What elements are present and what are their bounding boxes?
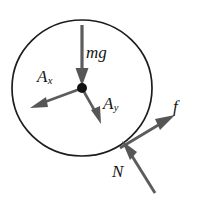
vector-label-ax-text: A (37, 67, 47, 86)
vector-ay (83, 90, 101, 124)
vector-label-ay: Ay (103, 95, 118, 114)
vector-label-n-text: N (112, 162, 123, 181)
vector-label-ay-text: A (103, 94, 113, 113)
vector-label-mg: mg (86, 44, 107, 61)
vector-ax (30, 89, 80, 108)
vector-label-ax: Ax (37, 68, 52, 87)
vector-f (120, 115, 175, 148)
vector-label-ax-subscript: x (48, 75, 53, 86)
center-of-mass-dot (77, 83, 87, 93)
vector-label-f-text: f (173, 97, 178, 116)
vector-label-n: N (112, 163, 123, 180)
vector-label-ay-subscript: y (114, 102, 119, 113)
vector-label-mg-text: mg (86, 43, 107, 62)
vector-n (122, 141, 155, 193)
diagram-canvas (0, 0, 198, 198)
vector-label-f: f (173, 98, 178, 115)
free-body-diagram: mg Ax Ay f N (0, 0, 198, 198)
